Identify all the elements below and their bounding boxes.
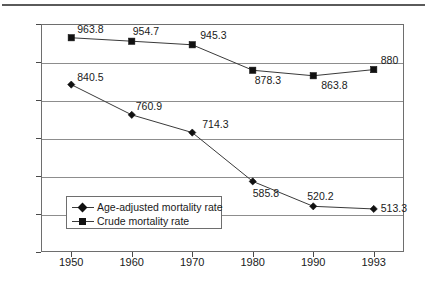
x-tick-mark: [71, 252, 72, 257]
gridline: [42, 177, 403, 178]
gridline: [42, 101, 403, 102]
x-tick-label: 1970: [168, 256, 216, 268]
data-point-label: 513.3: [381, 202, 407, 214]
x-tick-mark: [313, 252, 314, 257]
y-tick-mark: [36, 252, 41, 253]
data-point-label: 520.2: [307, 190, 333, 202]
x-tick-label: 1960: [108, 256, 156, 268]
legend-item-age-adjusted: Age-adjusted mortality rate: [72, 200, 216, 213]
gridline: [42, 63, 403, 64]
data-point-label: 954.7: [133, 25, 159, 37]
gridline: [42, 139, 403, 140]
x-tick-label: 1990: [289, 256, 337, 268]
x-tick-mark: [192, 252, 193, 257]
data-point-label: 878.3: [255, 74, 281, 86]
data-point-label: 863.8: [321, 79, 347, 91]
data-point-label: 760.9: [136, 100, 162, 112]
legend-label-crude: Crude mortality rate: [94, 215, 189, 227]
data-point-label: 840.5: [77, 71, 103, 83]
legend-label-age-adjusted: Age-adjusted mortality rate: [94, 201, 222, 213]
data-point-label: 585.8: [253, 187, 279, 199]
x-tick-label: 1993: [350, 256, 398, 268]
x-tick-label: 1980: [229, 256, 277, 268]
x-tick-label: 1950: [47, 256, 95, 268]
data-point-label: 963.8: [77, 23, 103, 35]
square-marker-icon: [72, 215, 94, 227]
x-tick-mark: [374, 252, 375, 257]
data-point-label: 880: [381, 54, 399, 66]
chart-legend: Age-adjusted mortality rate Crude mortal…: [66, 196, 222, 229]
diamond-marker-icon: [72, 201, 94, 213]
data-point-label: 945.3: [200, 29, 226, 41]
x-tick-mark: [132, 252, 133, 257]
legend-item-crude: Crude mortality rate: [72, 214, 216, 227]
x-tick-mark: [253, 252, 254, 257]
data-point-label: 714.3: [202, 118, 228, 130]
mortality-rate-line-chart: Deaths per 100,000 population 4005006007…: [0, 0, 437, 282]
